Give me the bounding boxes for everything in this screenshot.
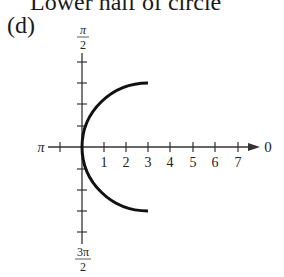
svg-text:1: 1: [101, 155, 108, 170]
svg-text:5: 5: [190, 155, 197, 170]
svg-text:6: 6: [212, 155, 219, 170]
svg-text:4: 4: [167, 155, 174, 170]
label-pi-over-2-num: π: [80, 23, 87, 37]
svg-text:7: 7: [235, 155, 242, 170]
label-3pi-over-2-num: 3π: [77, 245, 89, 259]
label-zero: 0: [264, 139, 272, 155]
label-pi: π: [37, 140, 45, 155]
svg-text:2: 2: [123, 155, 130, 170]
polar-graph: 1 2 3 4 5 6 7 0 π π 2 3π 2: [0, 0, 284, 277]
arrow-icon: [248, 143, 260, 151]
label-pi-over-2-den: 2: [80, 38, 86, 52]
tick-labels: 1 2 3 4 5 6 7: [101, 155, 242, 170]
svg-text:3: 3: [145, 155, 152, 170]
label-3pi-over-2-den: 2: [80, 260, 86, 274]
